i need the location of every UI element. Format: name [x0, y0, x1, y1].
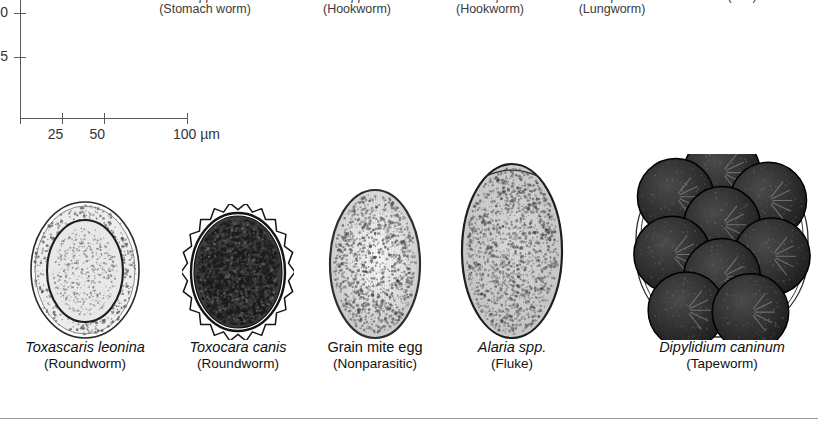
egg-illustration-toxascaris-leonina: [29, 200, 141, 340]
x-tick-label-100: 100 µm: [173, 126, 220, 142]
y-tick-0: [14, 13, 26, 14]
y-tick-label-0: 0: [0, 4, 8, 20]
caption-row: Toxascaris leonina(Roundworm)Toxocara ca…: [0, 340, 818, 384]
caption-common: (Tapeworm): [592, 356, 818, 372]
y-tick-label-1: 5: [0, 48, 8, 64]
x-tick-label-25: 25: [48, 126, 64, 142]
parasite-egg-plate: spp.(Stomach worm)spp.(Hookworm)stenocep…: [0, 0, 818, 436]
scale-bar: 2550100 µm05: [0, 0, 240, 150]
top-label-common: (ı ıııı): [652, 0, 818, 3]
egg-illustration-toxocara-canis: [182, 204, 294, 340]
y-axis-line: [20, 0, 21, 119]
top-label-4: (ı ıııı): [652, 0, 818, 3]
x-tick-origin: [20, 113, 21, 124]
y-tick-1: [14, 57, 26, 58]
top-label-common: (Lungworm): [522, 3, 702, 16]
caption-dipylidium-caninum: Dipylidium caninum(Tapeworm): [592, 340, 818, 371]
x-tick-label-50: 50: [90, 126, 106, 142]
bottom-divider: [0, 418, 818, 419]
egg-illustration-row: [0, 145, 818, 340]
egg-illustration-grain-mite-egg: [328, 188, 422, 340]
x-tick-100: [187, 113, 188, 124]
egg-illustration-dipylidium-caninum: [633, 154, 811, 340]
x-tick-25: [62, 113, 63, 124]
x-tick-50: [104, 113, 105, 124]
egg-illustration-alaria-spp: [460, 162, 564, 340]
caption-species: Dipylidium caninum: [592, 340, 818, 356]
